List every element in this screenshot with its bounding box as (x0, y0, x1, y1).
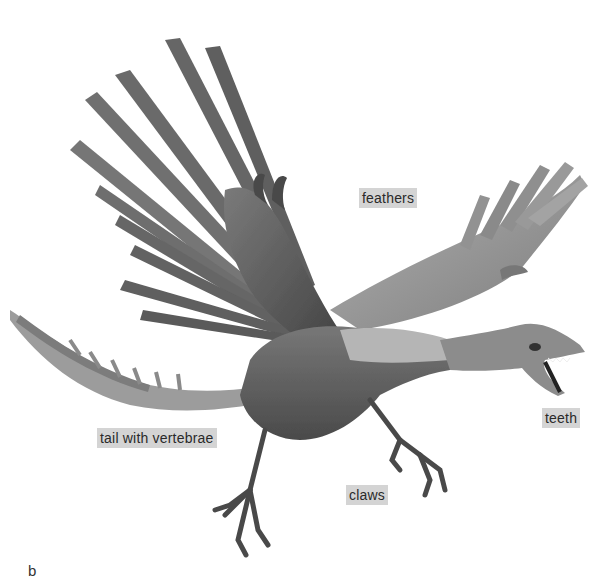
label-tail-with-vertebrae: tail with vertebrae (97, 428, 217, 448)
left-wing (70, 38, 350, 360)
archaeopteryx-illustration (0, 0, 596, 579)
label-claws: claws (346, 485, 388, 505)
label-teeth: teeth (542, 408, 580, 428)
archaeopteryx-figure: feathers teeth tail with vertebrae claws… (0, 0, 596, 579)
panel-letter: b (28, 562, 36, 579)
body (240, 326, 455, 440)
head (440, 324, 585, 396)
label-feathers: feathers (359, 188, 417, 208)
tail (10, 310, 275, 410)
